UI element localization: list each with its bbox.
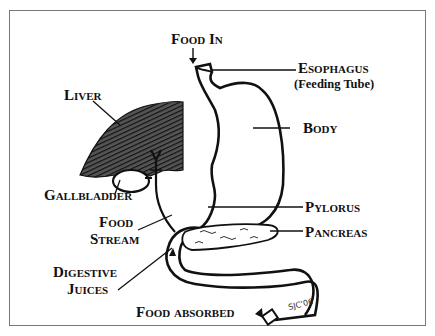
label-esophagus-sub: (Feeding Tube) [294,77,374,92]
label-liver: Liver [64,88,102,103]
label-juices: Juices [67,282,108,297]
liver-shape [80,102,183,178]
label-digestive: Digestive [53,265,117,280]
label-food-absorbed: Food absorbed [136,305,235,320]
label-stream: Stream [90,232,139,247]
pancreas-shape [182,224,277,250]
label-food: Food [99,215,133,230]
label-body: Body [303,121,337,136]
stomach-diagram-drawing [0,0,435,336]
label-food-in: Food In [171,32,223,47]
label-gallbladder: Gallbladder [44,188,132,203]
label-esophagus: Esophagus [298,61,369,76]
label-pancreas: Pancreas [305,225,367,240]
label-pylorus: Pylorus [305,200,360,215]
